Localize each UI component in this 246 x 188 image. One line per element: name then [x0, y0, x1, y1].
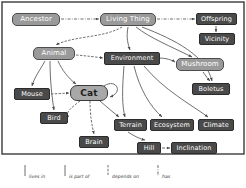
edge-cat-terrain: [100, 101, 119, 117]
node-label-mushroom: Mushroom: [181, 61, 218, 68]
node-environment[interactable]: Environment: [104, 52, 160, 65]
node-living-thing[interactable]: Living Thing: [100, 13, 156, 26]
node-cat[interactable]: Cat: [70, 85, 108, 101]
node-label-cat: Cat: [80, 89, 97, 98]
node-label-ecosystem: Ecosystem: [154, 122, 190, 129]
edge-animal-environment: [76, 55, 103, 58]
node-climate[interactable]: Climate: [198, 119, 234, 131]
edge-animal-mouse: [32, 61, 45, 86]
node-animal[interactable]: Animal: [33, 47, 75, 60]
node-label-environment: Environment: [111, 55, 154, 62]
node-inclination[interactable]: Inclination: [171, 142, 217, 154]
node-label-ancestor: Ancestor: [20, 16, 52, 23]
edge-environment-ecosystem: [134, 66, 162, 117]
edge-environment-terrain: [123, 66, 125, 117]
legend-label-is-part-of: is part of: [69, 174, 89, 179]
edge-cat-brain: [90, 101, 94, 134]
node-brain[interactable]: Brain: [79, 136, 109, 148]
node-label-brain: Brain: [85, 139, 103, 146]
legend: lives in is part of depends on has: [0, 158, 246, 188]
node-label-mouse: Mouse: [21, 91, 43, 98]
edge-animal-bird: [50, 61, 54, 110]
legend-label-depends-on: depends on: [112, 174, 139, 179]
legend-label-lives-in: lives in: [29, 174, 45, 179]
node-label-terrain: Terrain: [119, 122, 142, 129]
node-label-climate: Climate: [203, 122, 229, 129]
node-bird[interactable]: Bird: [40, 112, 68, 124]
node-mushroom[interactable]: Mushroom: [176, 58, 224, 71]
node-ancestor[interactable]: Ancestor: [12, 13, 60, 26]
node-ecosystem[interactable]: Ecosystem: [150, 119, 194, 131]
edge-living-thing-environment: [127, 27, 130, 50]
node-label-living-thing: Living Thing: [106, 16, 150, 23]
node-boletus[interactable]: Boletus: [192, 83, 230, 95]
node-hill[interactable]: Hill: [137, 142, 161, 154]
concept-map-diagram: Ancestor Living Thing Offspring Vicinity…: [0, 0, 246, 188]
node-label-hill: Hill: [144, 145, 155, 152]
legend-label-has: has: [162, 174, 170, 179]
edge-mouse-cat: [51, 93, 69, 94]
node-label-boletus: Boletus: [199, 86, 224, 93]
node-label-inclination: Inclination: [177, 145, 212, 152]
edge-animal-cat: [58, 61, 76, 84]
node-label-vicinity: Vicinity: [205, 36, 230, 43]
node-label-animal: Animal: [42, 50, 67, 57]
node-label-offspring: Offspring: [201, 16, 232, 23]
node-vicinity[interactable]: Vicinity: [199, 33, 235, 45]
edge-environment-mushroom: [158, 58, 175, 62]
edge-terrain-hill: [128, 132, 145, 140]
edge-cat-bird: [67, 101, 80, 117]
node-terrain[interactable]: Terrain: [114, 119, 147, 131]
node-offspring[interactable]: Offspring: [196, 13, 237, 25]
node-label-bird: Bird: [47, 115, 60, 122]
edge-living-thing-animal: [56, 27, 122, 45]
node-mouse[interactable]: Mouse: [14, 88, 50, 100]
